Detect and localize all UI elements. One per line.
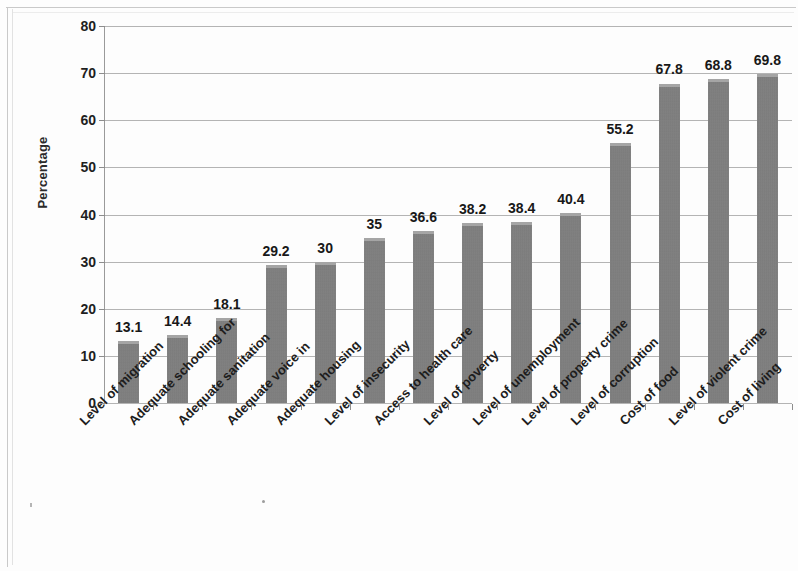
bar-value-label: 14.4 bbox=[164, 313, 191, 329]
bar-value-label: 35 bbox=[366, 216, 382, 232]
bar-highlight bbox=[708, 79, 729, 82]
y-axis-tick-mark bbox=[99, 309, 105, 310]
x-axis-tick-mark bbox=[595, 404, 596, 410]
x-axis-tick-mark bbox=[546, 404, 547, 410]
y-axis-tick-label: 50 bbox=[56, 159, 96, 175]
bar-highlight bbox=[167, 335, 188, 338]
bar bbox=[757, 74, 778, 403]
y-axis-tick-mark bbox=[99, 356, 105, 357]
bar-highlight bbox=[560, 213, 581, 216]
scan-speckle bbox=[262, 500, 265, 503]
page-border-top-inner bbox=[12, 12, 794, 13]
bar-value-label: 68.8 bbox=[705, 57, 732, 73]
bar-value-label: 38.2 bbox=[459, 201, 486, 217]
bar-highlight bbox=[659, 84, 680, 87]
x-axis-tick-mark bbox=[399, 404, 400, 410]
bar-value-label: 29.2 bbox=[262, 243, 289, 259]
gridline bbox=[104, 215, 792, 216]
bar-value-label: 36.6 bbox=[410, 209, 437, 225]
y-axis-tick-labels: 01020304050607080 bbox=[52, 0, 96, 571]
x-axis-tick-mark bbox=[497, 404, 498, 410]
x-axis-tick-mark bbox=[350, 404, 351, 410]
bar-value-label: 40.4 bbox=[557, 191, 584, 207]
gridline bbox=[104, 120, 792, 121]
bar-value-label: 13.1 bbox=[115, 319, 142, 335]
bar-highlight bbox=[511, 222, 532, 225]
bar-highlight bbox=[757, 74, 778, 77]
y-axis-title: Percentage bbox=[35, 113, 50, 233]
y-axis-tick-mark bbox=[99, 215, 105, 216]
x-axis-tick-mark bbox=[792, 404, 793, 410]
y-axis-tick-mark bbox=[99, 73, 105, 74]
bar-highlight bbox=[364, 238, 385, 241]
x-axis-tick-mark bbox=[153, 404, 154, 410]
gridline bbox=[104, 73, 792, 74]
y-axis-tick-mark bbox=[99, 26, 105, 27]
x-axis-tick-mark bbox=[251, 404, 252, 410]
x-axis-tick-mark bbox=[448, 404, 449, 410]
bar bbox=[659, 84, 680, 404]
page-border-left-inner bbox=[12, 9, 13, 565]
bar-value-label: 18.1 bbox=[213, 296, 240, 312]
y-axis-tick-mark bbox=[99, 120, 105, 121]
bar-value-label: 30 bbox=[317, 240, 333, 256]
x-axis-tick-mark bbox=[743, 404, 744, 410]
x-axis-tick-mark bbox=[694, 404, 695, 410]
bar-highlight bbox=[315, 262, 336, 265]
gridline bbox=[104, 309, 792, 310]
x-axis-tick-mark bbox=[301, 404, 302, 410]
y-axis-tick-label: 70 bbox=[56, 65, 96, 81]
bar bbox=[708, 79, 729, 403]
y-axis-tick-mark bbox=[99, 262, 105, 263]
page-border-top bbox=[6, 7, 796, 8]
y-axis-tick-mark bbox=[99, 403, 105, 404]
bar-highlight bbox=[266, 265, 287, 268]
y-axis-tick-label: 80 bbox=[56, 18, 96, 34]
gridline bbox=[104, 26, 792, 27]
scan-speckle bbox=[30, 503, 32, 507]
y-axis-tick-label: 10 bbox=[56, 348, 96, 364]
bar-chart-figure: Percentage 01020304050607080 13.114.418.… bbox=[0, 0, 798, 571]
bar-highlight bbox=[413, 231, 434, 234]
y-axis-tick-label: 20 bbox=[56, 301, 96, 317]
gridline bbox=[104, 262, 792, 263]
x-axis-tick-mark bbox=[202, 404, 203, 410]
bar-value-label: 69.8 bbox=[754, 52, 781, 68]
y-axis-tick-mark bbox=[99, 167, 105, 168]
bar-highlight bbox=[462, 223, 483, 226]
x-axis-tick-mark bbox=[645, 404, 646, 410]
bar-value-label: 67.8 bbox=[656, 61, 683, 77]
y-axis-tick-label: 60 bbox=[56, 112, 96, 128]
bar-highlight bbox=[118, 341, 139, 344]
gridline bbox=[104, 167, 792, 168]
y-axis-tick-label: 30 bbox=[56, 254, 96, 270]
y-axis-tick-label: 40 bbox=[56, 207, 96, 223]
bar-value-label: 55.2 bbox=[606, 121, 633, 137]
bar-value-label: 38.4 bbox=[508, 200, 535, 216]
bar-highlight bbox=[610, 143, 631, 146]
page-border-left bbox=[7, 7, 8, 567]
